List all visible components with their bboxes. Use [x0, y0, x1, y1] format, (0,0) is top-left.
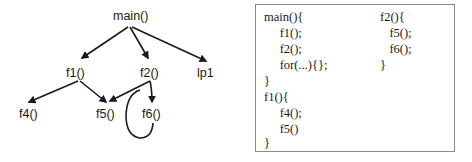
code-line: f6();	[380, 42, 412, 56]
code-line: for(...){};	[264, 58, 327, 72]
edge-f1-f5	[80, 81, 106, 102]
node-f1: f1()	[66, 66, 85, 80]
call-graph: main() f1() f2() lp1 f4() f5() f6()	[0, 0, 250, 162]
code-line: f4();	[264, 106, 302, 120]
code-line: f1();	[264, 26, 302, 40]
edge-f2-f6	[150, 81, 152, 102]
edge-f1-f4	[29, 81, 78, 102]
code-line: }	[264, 74, 270, 88]
code-line: f5();	[380, 26, 412, 40]
code-line: main(){	[264, 10, 303, 24]
node-f2: f2()	[140, 66, 159, 80]
code-line: f2(){	[380, 10, 405, 24]
edge-main-f1	[82, 27, 128, 58]
node-lp1: lp1	[197, 66, 214, 80]
code-line: f5()	[264, 122, 298, 136]
code-line: }	[264, 136, 270, 150]
node-f5: f5()	[96, 107, 115, 121]
code-line: f1(){	[264, 90, 289, 104]
edge-main-f2	[130, 27, 148, 58]
edge-main-lp1	[132, 27, 206, 61]
source-code-box: main(){ f1(); f2(); for(...){}; } f1(){ …	[255, 4, 455, 152]
code-line: }	[380, 58, 386, 72]
node-main: main()	[113, 9, 148, 23]
node-f4: f4()	[19, 107, 38, 121]
node-f6: f6()	[142, 107, 161, 121]
code-line: f2();	[264, 42, 302, 56]
